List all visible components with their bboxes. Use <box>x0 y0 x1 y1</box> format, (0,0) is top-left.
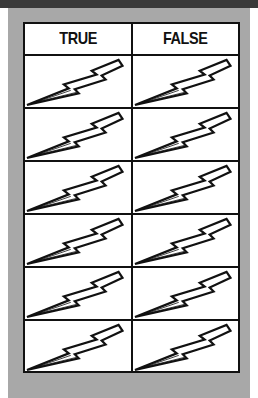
drop-cell-true[interactable] <box>25 56 133 107</box>
drop-cell-false[interactable] <box>133 268 239 319</box>
table-header: TRUE FALSE <box>25 24 238 56</box>
header-true-label: TRUE <box>59 29 97 49</box>
lightning-bolt-icon <box>133 162 239 213</box>
lightning-bolt-icon <box>133 321 239 372</box>
lightning-bolt-icon <box>25 321 131 372</box>
header-true: TRUE <box>25 24 133 54</box>
lightning-bolt-icon <box>133 268 239 319</box>
table-row <box>25 268 238 321</box>
table-row <box>25 215 238 268</box>
true-false-sort-table: TRUE FALSE <box>23 22 240 373</box>
lightning-bolt-icon <box>25 162 131 213</box>
drop-cell-true[interactable] <box>25 215 133 266</box>
top-bar <box>0 0 258 8</box>
table-row <box>25 162 238 215</box>
drop-cell-false[interactable] <box>133 162 239 213</box>
lightning-bolt-icon <box>25 56 131 107</box>
drop-cell-true[interactable] <box>25 321 133 372</box>
lightning-bolt-icon <box>133 56 239 107</box>
drop-cell-false[interactable] <box>133 215 239 266</box>
lightning-bolt-icon <box>25 215 131 266</box>
drop-cell-false[interactable] <box>133 321 239 372</box>
table-body <box>25 56 238 371</box>
lightning-bolt-icon <box>133 215 239 266</box>
table-row <box>25 321 238 372</box>
drop-cell-false[interactable] <box>133 56 239 107</box>
drop-cell-true[interactable] <box>25 162 133 213</box>
header-false: FALSE <box>133 24 239 54</box>
table-row <box>25 56 238 109</box>
drop-cell-true[interactable] <box>25 268 133 319</box>
drop-cell-false[interactable] <box>133 109 239 160</box>
lightning-bolt-icon <box>25 109 131 160</box>
table-row <box>25 109 238 162</box>
drop-cell-true[interactable] <box>25 109 133 160</box>
lightning-bolt-icon <box>25 268 131 319</box>
lightning-bolt-icon <box>133 109 239 160</box>
header-false-label: FALSE <box>163 29 207 49</box>
